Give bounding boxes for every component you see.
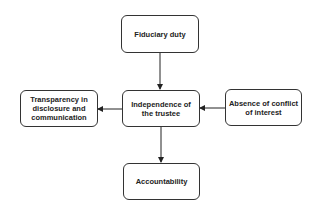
node-independence-of-trustee: Independence of the trustee [122, 90, 200, 127]
node-transparency: Transparency in disclosure and communica… [20, 90, 98, 127]
node-label: Absence of conflict of interest [228, 99, 299, 117]
node-label: Transparency in disclosure and communica… [23, 95, 95, 122]
node-fiduciary-duty: Fiduciary duty [121, 15, 199, 53]
node-label: Accountability [136, 177, 188, 186]
node-label: Fiduciary duty [134, 30, 185, 39]
node-label: Independence of the trustee [125, 100, 197, 118]
node-absence-of-conflict: Absence of conflict of interest [225, 89, 302, 126]
node-accountability: Accountability [123, 163, 200, 200]
